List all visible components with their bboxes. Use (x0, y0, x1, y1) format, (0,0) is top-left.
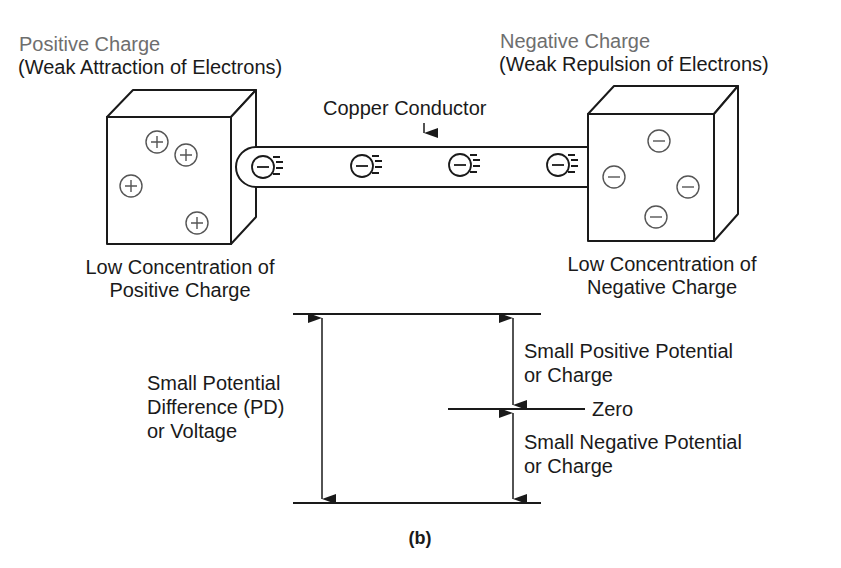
positive-potential-line1: Small Positive Potential (524, 340, 733, 363)
positive-charge-title: Positive Charge (19, 33, 160, 56)
positive-charge-subtitle: (Weak Attraction of Electrons) (18, 56, 282, 79)
figure-label: (b) (395, 527, 445, 550)
left-caption-line1: Low Concentration of (50, 256, 310, 279)
negative-potential-line2: or Charge (524, 455, 613, 478)
pd-label-line1: Small Potential (147, 372, 280, 395)
negative-charge-subtitle: (Weak Repulsion of Electrons) (499, 53, 769, 76)
left-caption-line2: Positive Charge (50, 279, 310, 302)
zero-label: Zero (592, 398, 633, 421)
positive-charge-box (107, 90, 256, 244)
conductor-left-end (236, 147, 588, 187)
negative-charge-box (588, 86, 738, 241)
pd-label-line2: Difference (PD) (147, 396, 284, 419)
right-caption-line2: Negative Charge (532, 276, 792, 299)
copper-conductor-label: Copper Conductor (323, 97, 486, 120)
negative-charge-title: Negative Charge (500, 30, 650, 53)
right-caption-line1: Low Concentration of (532, 253, 792, 276)
positive-potential-line2: or Charge (524, 364, 613, 387)
pd-label-line3: or Voltage (147, 420, 237, 443)
negative-potential-line1: Small Negative Potential (524, 431, 742, 454)
